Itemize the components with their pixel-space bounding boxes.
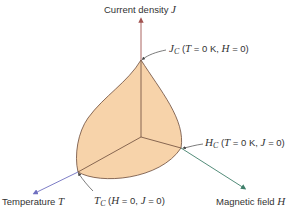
jc-leader <box>143 50 166 59</box>
t-axis-arrow <box>35 172 78 193</box>
h-axis-label-text: Magnetic field <box>216 196 275 207</box>
superconductor-phase-diagram <box>0 0 296 217</box>
jc-val2: = 0) <box>230 43 249 54</box>
jc-var2: H <box>222 42 230 54</box>
tc-subscript: C <box>100 199 105 208</box>
critical-surface <box>76 60 181 179</box>
j-axis-label-text: Current density <box>104 4 168 15</box>
h-axis-label: Magnetic field H <box>216 195 285 207</box>
j-axis-label: Current density J <box>104 3 176 15</box>
tc-val2: = 0) <box>146 195 165 206</box>
h-axis-arrow <box>181 148 244 188</box>
h-axis-symbol: H <box>277 195 285 207</box>
jc-annotation: JC (T = 0 K, H = 0) <box>169 42 249 56</box>
tc-val1: = 0, <box>119 195 140 206</box>
hc-leader <box>184 144 203 148</box>
jc-val1: = 0 K, <box>191 43 221 54</box>
hc-val2: = 0) <box>266 137 285 148</box>
jc-subscript: C <box>174 47 179 56</box>
hc-annotation: HC (T = 0 K, J = 0) <box>205 136 285 150</box>
tc-annotation: TC (H = 0, J = 0) <box>94 194 165 208</box>
t-axis-label: Temperature T <box>2 195 64 207</box>
hc-symbol: H <box>205 136 213 148</box>
t-axis-label-text: Temperature <box>2 196 55 207</box>
t-axis-symbol: T <box>58 195 64 207</box>
hc-subscript: C <box>213 141 218 150</box>
j-axis-symbol: J <box>171 3 176 15</box>
hc-val1: = 0 K, <box>230 137 260 148</box>
